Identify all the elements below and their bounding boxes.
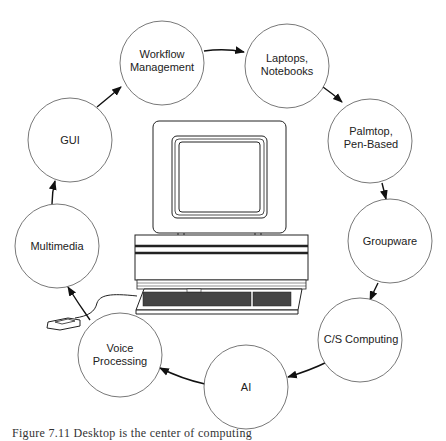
node-label: Pen-Based xyxy=(344,138,398,150)
node-label: Management xyxy=(130,61,194,73)
node-label: AI xyxy=(241,381,251,393)
node-label: Notebooks xyxy=(261,65,314,77)
node-groupware: Groupware xyxy=(348,199,432,283)
node-label: C/S Computing xyxy=(324,333,399,345)
node-ai: AI xyxy=(204,345,288,429)
node-label: Laptops, xyxy=(266,52,308,64)
node-palmtop-pen-based: Palmtop, Pen-Based xyxy=(328,99,412,183)
node-label: Multimedia xyxy=(30,240,84,252)
node-label: Processing xyxy=(93,355,147,367)
node-label: Groupware xyxy=(363,235,417,247)
node-voice-processing: Voice Processing xyxy=(78,313,162,397)
node-cs-computing: C/S Computing xyxy=(318,298,402,382)
node-laptops-notebooks: Laptops, Notebooks xyxy=(245,24,329,108)
node-label: Palmtop, xyxy=(349,125,392,137)
node-label: Voice xyxy=(107,342,134,354)
node-gui: GUI xyxy=(28,98,112,182)
figure-caption: Figure 7.11 Desktop is the center of com… xyxy=(12,426,252,441)
node-workflow-management: Workflow Management xyxy=(120,21,204,105)
node-multimedia: Multimedia xyxy=(15,204,99,288)
node-label: GUI xyxy=(60,134,80,146)
node-label: Workflow xyxy=(139,48,184,60)
